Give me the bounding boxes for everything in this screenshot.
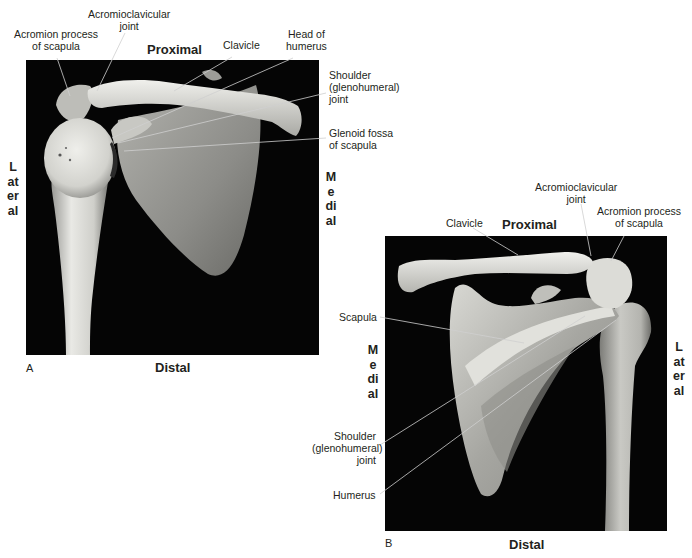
panel-b-photo [385,236,667,531]
label-b-shoulder-joint: Shoulder (glenohumeral) joint [312,430,376,466]
label-b-distal: Distal [509,537,544,552]
humerus-shaft-shape [51,173,108,355]
label-b-humerus: Humerus [333,489,376,501]
clavicle-shape [398,252,593,292]
label-a-lateral: Lateral [7,160,19,218]
label-b-clavicle: Clavicle [446,217,483,229]
label-a-glenoid-fossa: Glenoid fossa of scapula [329,127,393,151]
label-b-proximal: Proximal [502,217,557,232]
label-a-distal: Distal [155,360,190,375]
panel-b-bones-illustration [385,236,667,531]
acromion-shape [586,258,632,308]
label-b-lateral: Lateral [673,340,685,398]
label-a-medial: Medial [325,170,337,228]
panel-b-letter: B [385,537,392,549]
panel-a-letter: A [26,362,33,374]
label-b-medial: Medial [367,343,379,401]
humerus-shape [600,302,651,531]
label-a-head-of-humerus: Head of humerus [286,28,327,52]
panel-a-photo [26,60,319,355]
label-a-proximal: Proximal [147,42,202,57]
humeral-head-shape [44,118,116,198]
label-b-scapula: Scapula [339,311,377,323]
label-a-clavicle: Clavicle [223,39,260,51]
label-b-acromioclavicular-joint: Acromioclavicular joint [535,181,617,205]
acromion-shape [56,85,93,121]
label-a-shoulder-joint: Shoulder (glenohumeral) joint [329,69,400,105]
panel-a-bones-illustration [26,60,319,355]
label-a-acromion-process: Acromion process of scapula [14,28,98,52]
label-a-acromioclavicular-joint: Acromioclavicular joint [88,8,170,32]
label-b-acromion-process: Acromion process of scapula [597,205,681,229]
